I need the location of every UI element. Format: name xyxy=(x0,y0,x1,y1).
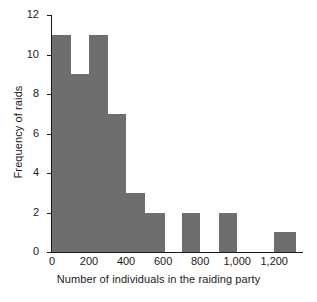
plot-area: 024681012 xyxy=(52,15,302,252)
y-tick-mark: 6 xyxy=(47,134,52,135)
y-tick-label: 4 xyxy=(33,166,39,179)
x-tick-label: 1,200 xyxy=(260,255,288,268)
y-tick-mark: 8 xyxy=(47,94,52,95)
y-tick-mark: 12 xyxy=(47,15,52,16)
histogram-bar xyxy=(274,232,296,252)
y-tick-mark: 2 xyxy=(47,213,52,214)
x-tick-label: 600 xyxy=(154,255,172,268)
histogram-bar xyxy=(52,35,71,252)
y-tick-mark: 4 xyxy=(47,173,52,174)
y-tick-label: 0 xyxy=(33,245,39,258)
histogram-bar xyxy=(108,114,127,252)
y-tick-label: 12 xyxy=(27,8,39,21)
x-tick-label: 1,000 xyxy=(223,255,251,268)
x-tick-label: 400 xyxy=(117,255,135,268)
histogram-bar xyxy=(145,213,165,253)
histogram-bar xyxy=(126,193,145,252)
y-tick-label: 6 xyxy=(33,127,39,140)
histogram-bar xyxy=(182,213,201,253)
histogram-bar xyxy=(89,35,108,252)
histogram-figure: Frequency of raids 024681012 02004006008… xyxy=(0,0,317,302)
y-tick-label: 8 xyxy=(33,87,39,100)
x-tick-label: 0 xyxy=(49,255,55,268)
histogram-bar xyxy=(71,74,90,252)
x-axis-line xyxy=(51,252,303,253)
x-tick-label: 800 xyxy=(191,255,209,268)
y-tick-label: 2 xyxy=(33,206,39,219)
y-tick-mark: 10 xyxy=(47,55,52,56)
y-axis-title: Frequency of raids xyxy=(12,52,24,212)
histogram-bar xyxy=(219,213,238,253)
x-tick-label: 200 xyxy=(80,255,98,268)
y-tick-mark: 0 xyxy=(47,252,52,253)
x-axis-title: Number of individuals in the raiding par… xyxy=(0,273,317,285)
y-tick-label: 10 xyxy=(27,48,39,61)
